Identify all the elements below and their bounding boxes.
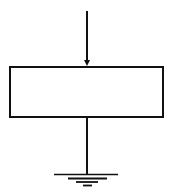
arrowhead-icon <box>84 60 90 66</box>
input-arrow <box>84 11 90 66</box>
diagram-canvas <box>0 0 171 194</box>
block-rectangle <box>10 67 163 117</box>
ground-icon <box>54 175 118 186</box>
